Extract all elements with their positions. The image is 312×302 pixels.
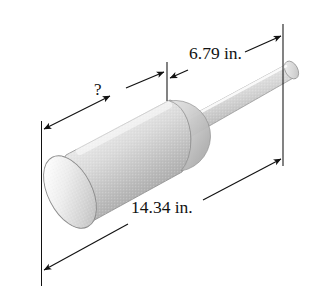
dimension-label-rod-length: 6.79 in. (189, 45, 242, 63)
stepped-shaft-diagram (0, 0, 312, 302)
dimension-line-unknown-length-right-leg (126, 72, 164, 88)
dimension-label-total-length: 14.34 in. (131, 199, 193, 217)
dimension-line-rod-length-left-leg (170, 70, 188, 78)
dimension-line-total-length-right-leg (203, 159, 281, 200)
figure-canvas: ? 6.79 in. 14.34 in. (0, 0, 312, 302)
dimension-label-unknown-length: ? (94, 81, 102, 98)
dimension-line-rod-length-right-leg (245, 36, 281, 52)
dimension-line-unknown-length (44, 96, 110, 129)
dimension-line-total-length-left-leg (44, 224, 128, 270)
